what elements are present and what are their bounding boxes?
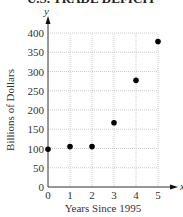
x-axis-label: Years Since 1995 (65, 202, 142, 214)
scatter-plot: y x 050100150200250300350400 012345 Year… (0, 0, 183, 217)
x-tick-label: 2 (89, 189, 95, 201)
x-tick-label: 3 (111, 189, 117, 201)
y-tick-label: 400 (28, 27, 45, 39)
y-tick-label: 100 (28, 143, 45, 155)
y-tick-label: 250 (28, 85, 45, 97)
x-tick-labels: 012345 (45, 189, 161, 201)
y-tick-labels: 050100150200250300350400 (28, 27, 45, 193)
x-tick-label: 5 (155, 189, 161, 201)
y-tick-label: 300 (28, 66, 45, 78)
data-point (111, 120, 117, 126)
data-point (45, 146, 51, 152)
y-tick-label: 50 (33, 162, 45, 174)
data-point (89, 144, 95, 150)
data-point (67, 144, 73, 150)
x-tick-label: 1 (67, 189, 73, 201)
x-tick-label: 4 (133, 189, 139, 201)
data-point (133, 78, 139, 84)
x-tick-label: 0 (45, 189, 51, 201)
y-axis-label: Billions of Dollars (4, 69, 16, 151)
y-tick-label: 200 (28, 104, 45, 116)
data-point (155, 39, 161, 45)
y-tick-label: 150 (28, 123, 45, 135)
x-axis-arrow-icon (170, 185, 178, 190)
data-points (45, 39, 161, 152)
y-axis-letter: y (43, 5, 49, 17)
y-axis-arrow-icon (46, 16, 51, 24)
gridlines (48, 33, 158, 187)
y-tick-label: 350 (28, 46, 45, 58)
y-tick-label: 0 (39, 181, 45, 193)
x-axis-letter: x (179, 180, 183, 192)
